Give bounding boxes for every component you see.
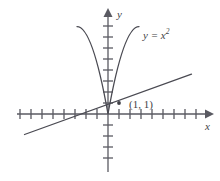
y-axis-arrowhead	[104, 8, 113, 17]
parabola-equation-base: y = x	[143, 29, 166, 41]
parabola-equation-label: y = x2	[143, 28, 169, 41]
parabola-equation-exponent: 2	[166, 27, 170, 36]
x-axis-arrowhead	[205, 110, 214, 119]
x-axis-label: x	[205, 121, 210, 132]
x-axis-group	[17, 109, 214, 119]
graph-canvas	[0, 0, 220, 181]
tangency-point-dot	[117, 101, 121, 105]
tangency-point-label: (1, 1)	[129, 99, 153, 110]
y-axis-group	[103, 8, 113, 172]
y-axis-label: y	[117, 9, 122, 20]
math-figure: y x y = x2 (1, 1)	[0, 0, 220, 181]
